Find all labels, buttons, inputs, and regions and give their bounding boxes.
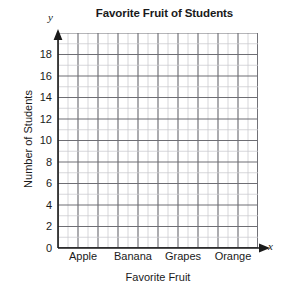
y-tick-label: 18 xyxy=(28,49,52,60)
y-tick-label: 8 xyxy=(28,157,52,168)
y-tick-label: 16 xyxy=(28,71,52,82)
y-tick-label: 10 xyxy=(28,135,52,146)
chart-title: Favorite Fruit of Students xyxy=(62,7,267,19)
bar-chart-figure: Favorite Fruit of Students y x Number of… xyxy=(0,0,287,302)
y-tick-label: 14 xyxy=(28,92,52,103)
y-tick-label: 6 xyxy=(28,178,52,189)
y-tick-label: 2 xyxy=(28,221,52,232)
y-tick-label: 0 xyxy=(28,243,52,254)
y-tick-label: 4 xyxy=(28,200,52,211)
x-category-label: Orange xyxy=(202,251,264,262)
y-tick-label: 12 xyxy=(28,114,52,125)
axis-lines xyxy=(40,20,287,280)
